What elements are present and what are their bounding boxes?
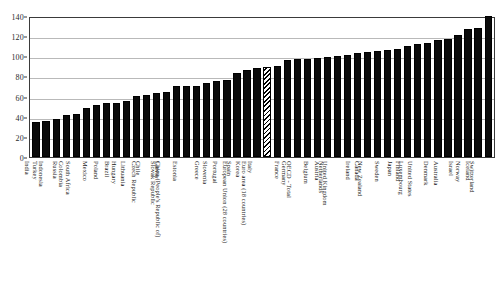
x-tick-label: Poland (92, 161, 98, 179)
y-tick-mark (24, 77, 27, 78)
x-tick-label: Israel (447, 161, 453, 176)
bar[interactable] (314, 58, 321, 157)
bar-slot (363, 18, 373, 157)
bar[interactable] (454, 35, 461, 157)
bar[interactable] (213, 81, 220, 157)
bar[interactable] (384, 50, 391, 157)
x-tick-label: New Zealand (356, 161, 362, 196)
bar[interactable] (32, 122, 39, 157)
bar[interactable] (203, 83, 210, 157)
bar-slot (302, 18, 312, 157)
bar[interactable] (424, 43, 431, 157)
x-axis-labels: IndiaTurkeyIndonesiaRussiaColombiaSouth … (29, 159, 495, 291)
bar[interactable] (243, 70, 250, 157)
x-tick-label: OECD - Total (285, 161, 291, 198)
bar-slot (152, 18, 162, 157)
x-label-slot: Australia (444, 159, 454, 291)
y-tick-label: 60 (16, 93, 24, 102)
bar[interactable] (284, 60, 291, 157)
bar[interactable] (253, 68, 260, 157)
bar[interactable] (464, 29, 471, 157)
bar[interactable] (163, 92, 170, 157)
x-tick-label: Norway (454, 161, 460, 182)
bar[interactable] (354, 53, 361, 157)
bar[interactable] (233, 73, 240, 157)
bar[interactable] (304, 59, 311, 157)
bar-slot (172, 18, 182, 157)
bar[interactable] (294, 59, 301, 157)
bar[interactable] (173, 86, 180, 158)
bar-slot (423, 18, 433, 157)
x-tick-label: Australia (433, 161, 439, 185)
bar-slot (232, 18, 242, 157)
y-tick-label: 20 (16, 133, 24, 142)
bar[interactable] (183, 86, 190, 158)
x-tick-label: Czech Republic (131, 161, 137, 203)
bar-slot (282, 18, 292, 157)
bar-slot (443, 18, 453, 157)
bar[interactable] (113, 103, 120, 157)
bar[interactable] (103, 103, 110, 157)
bar[interactable] (485, 16, 492, 157)
bar[interactable] (42, 121, 49, 157)
bar[interactable] (364, 52, 371, 157)
bar-slot (61, 18, 71, 157)
bar-slot (272, 18, 282, 157)
bar[interactable] (334, 56, 341, 157)
bar-slot (111, 18, 121, 157)
bar[interactable] (143, 95, 150, 157)
bar[interactable] (274, 66, 281, 157)
x-label-slot: Sweden (383, 159, 393, 291)
bar[interactable] (73, 114, 80, 157)
bar[interactable] (83, 108, 90, 157)
bar[interactable] (344, 55, 351, 157)
bar[interactable] (123, 101, 130, 157)
bar-slot (142, 18, 152, 157)
x-tick-label: Switzerland (469, 161, 475, 193)
bar[interactable] (53, 119, 60, 157)
y-tick-mark (24, 17, 27, 18)
bar[interactable] (394, 49, 401, 157)
y-tick-label: 140 (11, 13, 24, 22)
bar[interactable] (414, 44, 421, 157)
bar[interactable] (263, 67, 270, 157)
bar-slot (483, 18, 493, 157)
x-tick-label: United Kingdom (321, 161, 327, 206)
x-tick-label: Belgium (302, 161, 308, 184)
bar[interactable] (444, 39, 451, 157)
y-tick-mark (24, 37, 27, 38)
x-label-slot: Germany (292, 159, 302, 291)
x-tick-label: Slovenia (201, 161, 207, 184)
bar[interactable] (153, 93, 160, 157)
bar[interactable] (133, 96, 140, 157)
bar[interactable] (374, 51, 381, 157)
bar[interactable] (93, 105, 100, 157)
y-tick-mark (24, 117, 27, 118)
bar-slot (403, 18, 413, 157)
bar[interactable] (474, 28, 481, 157)
bar-slot (242, 18, 252, 157)
x-tick-label: Sweden (374, 161, 380, 182)
x-tick-label: Ireland (344, 161, 350, 180)
bar-slot (131, 18, 141, 157)
bar[interactable] (223, 80, 230, 157)
bar-slot (353, 18, 363, 157)
bar-slot (162, 18, 172, 157)
bar-slot (192, 18, 202, 157)
bar[interactable] (324, 57, 331, 157)
bar[interactable] (404, 46, 411, 157)
y-tick-mark (24, 137, 27, 138)
bar[interactable] (193, 86, 200, 158)
bar-slot (413, 18, 423, 157)
x-tick-label: Brazil (103, 161, 109, 177)
bar[interactable] (63, 115, 70, 157)
x-tick-label: Hungary (110, 161, 116, 184)
bar-slot (453, 18, 463, 157)
bar-slot (252, 18, 262, 157)
bar[interactable] (434, 40, 441, 157)
bar-slot (342, 18, 352, 157)
y-tick-label: 120 (11, 33, 24, 42)
bar-slot (51, 18, 61, 157)
bar-slot (373, 18, 383, 157)
bar-slot (292, 18, 302, 157)
